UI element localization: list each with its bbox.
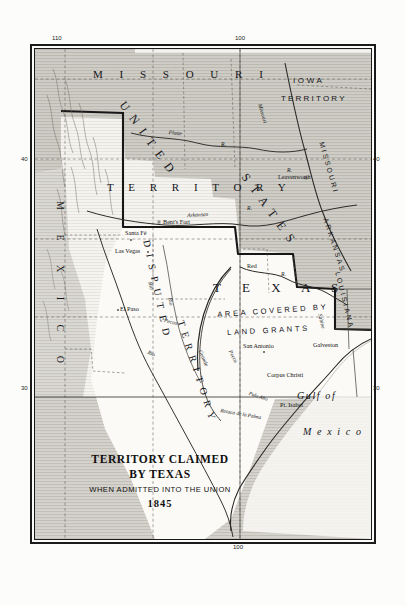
graticule-label-40-right: 40 [373,156,380,162]
river-label-red: Red [247,263,257,269]
santa-fe-dot [130,239,132,241]
graticule-label-30-right: 30 [373,385,380,391]
cartouche-year: 1845 [65,498,255,509]
graticule-label-30-left: 30 [21,385,28,391]
map-page: 110 100 100 40 30 40 30 [0,0,406,606]
cartouche-line-1: TERRITORY CLAIMED [65,453,255,465]
graticule-label-40-left: 40 [21,156,28,162]
city-label-las-vegas: Las Vegas [115,247,140,254]
san-antonio-dot [263,351,265,353]
city-label-bents-fort: Bent's Fort [163,218,190,225]
city-label-pt-isabel: Pt. Isabel [280,401,303,408]
graticule-label-110-top: 110 [52,35,62,41]
city-label-corpus-christi: Corpus Christi [267,371,303,378]
cartouche-line-2: BY TEXAS [65,468,255,480]
map-plate: 110 100 100 40 30 40 30 [30,44,376,544]
graticule-label-100-top: 100 [235,35,245,41]
city-label-leavenworth: Leavenworth [278,173,311,180]
el-paso-dot [117,309,119,311]
river-label-platte-r: R. [221,141,226,147]
city-label-galveston: Galveston [313,341,338,348]
river-label-arkansas-r: R. [247,205,252,211]
river-label-red-r: R. [281,271,286,277]
city-label-santa-fe: Santa Fé [125,229,146,236]
river-label-arkansas: Arkansas [187,211,208,218]
cartouche-line-3: WHEN ADMITTED INTO THE UNION [65,485,255,494]
map-canvas: M I S S O U R I T E R R I T O R Y IOWA T… [35,49,371,539]
river-label-missouri-r: R. [287,167,292,173]
title-cartouche: TERRITORY CLAIMED BY TEXAS WHEN ADMITTED… [65,453,255,509]
city-label-san-antonio: San Antonio [243,342,274,349]
las-vegas-dot [147,251,149,253]
city-label-el-paso: El Paso [120,305,139,312]
graticule-label-100-bottom: 100 [233,544,243,550]
river-label-platte: Platte [168,129,182,136]
